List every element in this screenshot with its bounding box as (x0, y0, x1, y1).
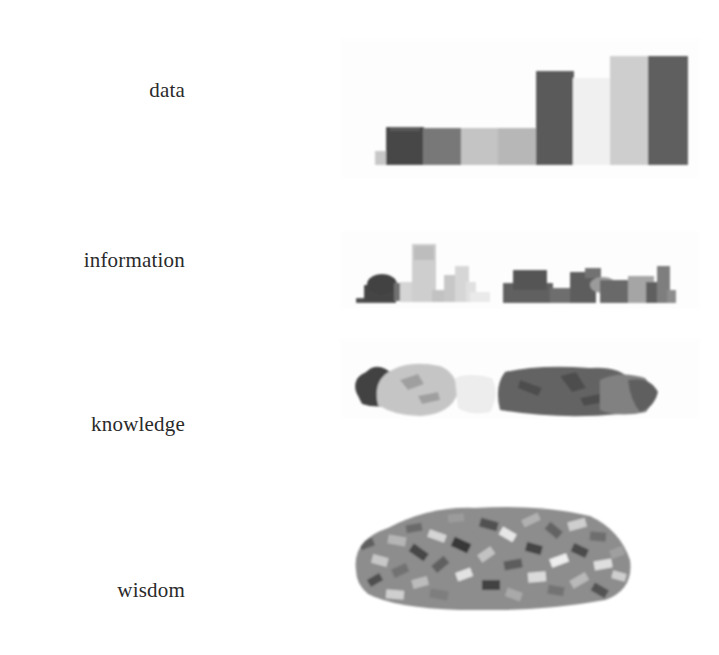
label-knowledge: knowledge (91, 412, 185, 437)
information-blocks (340, 230, 700, 310)
wisdom-mosaic-graphic (340, 480, 700, 610)
wisdom-blocks (340, 480, 700, 610)
knowledge-interlocked-graphic (340, 340, 700, 420)
label-wisdom: wisdom (117, 578, 185, 603)
data-blocks (340, 40, 700, 180)
label-data: data (149, 78, 185, 103)
knowledge-blocks (340, 340, 700, 420)
information-cityscape-graphic (340, 230, 700, 310)
data-bar-blocks-graphic (340, 40, 700, 180)
label-information: information (84, 248, 185, 273)
